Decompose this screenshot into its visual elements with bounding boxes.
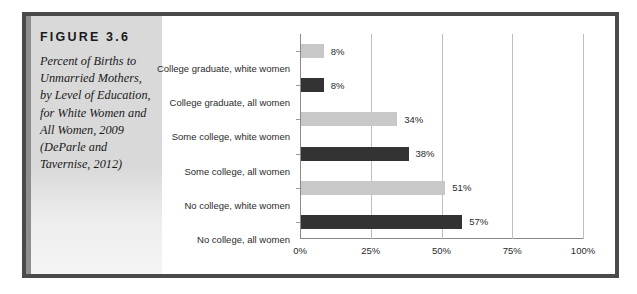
bar-row: 57% — [301, 215, 488, 229]
x-axis-tick-labels: 0%25%50%75%100% — [300, 239, 583, 259]
y-tick-mark — [296, 119, 300, 120]
figure-number: FIGURE 3.6 — [40, 30, 154, 44]
figure-inner: FIGURE 3.6 Percent of Births to Unmarrie… — [26, 16, 615, 274]
category-label: Some college, white women — [172, 130, 290, 144]
bar — [301, 78, 324, 92]
y-tick-mark — [296, 51, 300, 52]
gridline-100 — [583, 34, 584, 239]
bar-value-label: 38% — [416, 148, 435, 159]
bar-value-label: 51% — [452, 182, 471, 193]
chart-area: College graduate, white womenCollege gra… — [162, 16, 615, 274]
bar — [301, 112, 397, 126]
bar-value-label: 8% — [331, 80, 345, 91]
bar-value-label: 57% — [469, 216, 488, 227]
y-tick-mark — [296, 222, 300, 223]
gridline-50 — [442, 34, 443, 239]
plot-region: 8%8%34%38%51%57% — [300, 34, 583, 239]
gridline-75 — [512, 34, 513, 239]
category-label: No college, all women — [197, 233, 290, 247]
gridline-25 — [371, 34, 372, 239]
category-label: Some college, all women — [184, 165, 290, 179]
bar-row: 51% — [301, 181, 471, 195]
caption-body: FIGURE 3.6 Percent of Births to Unmarrie… — [40, 30, 154, 173]
category-label-list: College graduate, white womenCollege gra… — [162, 34, 298, 239]
x-tick-label: 50% — [432, 245, 451, 256]
bar-row: 38% — [301, 147, 435, 161]
category-label: College graduate, white women — [157, 62, 290, 76]
bar — [301, 181, 445, 195]
caption-panel: FIGURE 3.6 Percent of Births to Unmarrie… — [26, 16, 162, 274]
x-tick-label: 75% — [503, 245, 522, 256]
category-label: No college, white women — [184, 199, 290, 213]
y-axis-line — [300, 34, 301, 239]
bar-value-label: 8% — [331, 46, 345, 57]
x-tick-label: 100% — [571, 245, 595, 256]
figure-caption-text: Percent of Births to Unmarried Mothers, … — [40, 53, 154, 173]
bar — [301, 215, 462, 229]
x-tick-label: 25% — [361, 245, 380, 256]
figure-frame: FIGURE 3.6 Percent of Births to Unmarrie… — [22, 12, 619, 278]
caption-accent-stripe — [26, 16, 31, 274]
y-tick-mark — [296, 85, 300, 86]
bar — [301, 44, 324, 58]
category-label: College graduate, all women — [170, 96, 290, 110]
y-tick-mark — [296, 154, 300, 155]
bar-row: 34% — [301, 112, 423, 126]
x-tick-label: 0% — [293, 245, 307, 256]
bar-value-label: 34% — [404, 114, 423, 125]
bar-row: 8% — [301, 44, 344, 58]
y-tick-mark — [296, 188, 300, 189]
bar-row: 8% — [301, 78, 344, 92]
bar — [301, 147, 409, 161]
